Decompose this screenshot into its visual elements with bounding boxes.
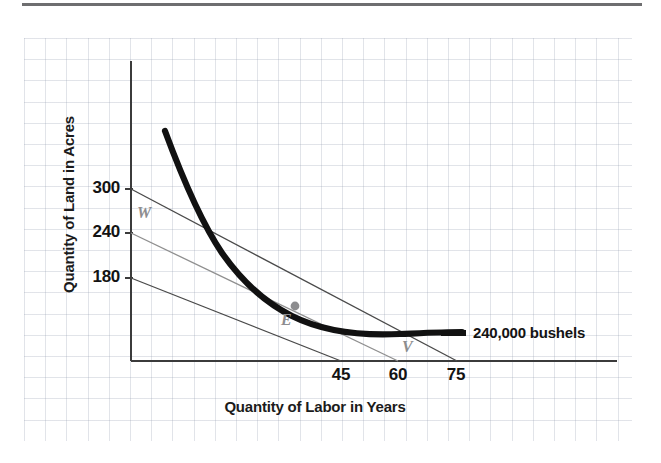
x-tick-label-60: 60 — [376, 365, 420, 385]
y-tick-label-240: 240 — [60, 222, 120, 242]
annotation-label-v: V — [402, 338, 413, 356]
isocost-line-lower — [131, 278, 341, 361]
x-tick-label-45: 45 — [319, 365, 363, 385]
isoquant-curve — [165, 131, 462, 334]
x-axis-title: Quantity of Labor in Years — [150, 398, 480, 415]
y-tick-label-300: 300 — [60, 178, 120, 198]
annotation-label-w: W — [137, 204, 151, 222]
isoquant-series-label: 240,000 bushels — [473, 324, 585, 341]
chart-figure: Quantity of Land in Acres Quantity of La… — [0, 0, 661, 463]
point-marker-e — [291, 302, 300, 311]
x-tick-label-75: 75 — [434, 365, 478, 385]
y-tick-label-180: 180 — [60, 267, 120, 287]
annotation-label-e: E — [281, 311, 292, 329]
